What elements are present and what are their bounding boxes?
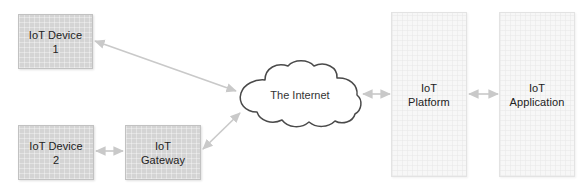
cloud-label: The Internet [232,58,368,130]
node-label-line1: IoT [421,81,437,95]
node-label-line1: IoT [155,139,171,153]
node-iot-application[interactable]: IoT Application [499,12,575,177]
node-iot-gateway[interactable]: IoT Gateway [125,125,201,180]
diagram-canvas: IoT Device 1 IoT Device 2 IoT Gateway Th… [0,0,583,189]
node-label-line1: IoT [529,81,545,95]
node-label-line2: 2 [53,153,59,167]
node-label-line1: IoT Device [29,28,82,42]
node-label-line2: Platform [408,95,450,109]
node-label-line2: Application [510,95,565,109]
node-label-line2: Gateway [141,153,185,167]
arrow-device1-internet [95,41,236,91]
node-iot-device-2[interactable]: IoT Device 2 [18,125,94,180]
node-label-line2: 1 [52,42,58,56]
node-iot-device-1[interactable]: IoT Device 1 [18,14,93,69]
node-iot-platform[interactable]: IoT Platform [391,12,467,177]
node-the-internet[interactable]: The Internet [232,58,368,130]
node-label-line1: IoT Device [29,139,82,153]
